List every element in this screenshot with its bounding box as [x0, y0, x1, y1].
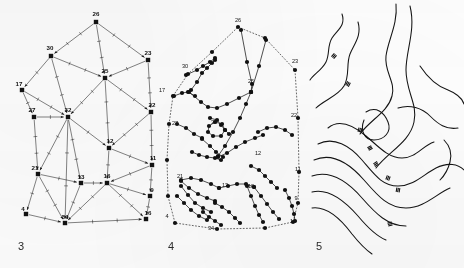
- map-point: [211, 134, 215, 138]
- map-point-label: 4: [165, 213, 168, 219]
- panel-3-edge-layer: [23, 24, 152, 223]
- map-point: [175, 194, 179, 198]
- graph-node: [79, 181, 83, 185]
- panel-5-contour-map: [310, 0, 464, 268]
- map-point: [239, 28, 243, 32]
- contour-line: [312, 191, 386, 240]
- map-point: [275, 186, 279, 190]
- graph-node: [49, 54, 53, 58]
- map-point: [195, 80, 199, 84]
- map-point: [223, 144, 227, 148]
- edge-tick-mark: [50, 105, 52, 108]
- map-point: [165, 158, 169, 162]
- map-point: [219, 223, 223, 227]
- map-point: [205, 196, 209, 200]
- graph-edge: [34, 120, 37, 170]
- graph-edge: [65, 120, 68, 219]
- tick-stroke: [388, 225, 392, 226]
- caption-panel-5: 5: [316, 240, 323, 252]
- graph-node-label: 23: [145, 49, 152, 56]
- graph-node: [63, 221, 67, 225]
- contour-tick-mark: [346, 81, 351, 86]
- contour-line: [376, 6, 415, 168]
- graph-node-label: 16: [104, 172, 111, 179]
- map-point: [201, 64, 205, 68]
- graph-node: [144, 217, 148, 221]
- edge-tick-mark: [53, 204, 56, 206]
- map-point: [227, 132, 231, 136]
- edge-tick-mark: [47, 153, 50, 155]
- edge-tick-mark: [133, 98, 135, 101]
- map-point: [290, 204, 294, 208]
- graph-node: [103, 76, 107, 80]
- caption-panel-3: 3: [18, 240, 25, 252]
- contour-line: [420, 66, 464, 104]
- contour-tick-mark: [386, 175, 390, 180]
- map-point: [263, 174, 267, 178]
- graph-edge: [54, 24, 93, 54]
- map-point: [249, 90, 253, 94]
- graph-edge: [69, 120, 81, 179]
- map-point: [189, 176, 193, 180]
- graph-node-label: 34: [62, 213, 69, 220]
- graph-node: [146, 58, 150, 62]
- map-point: [238, 221, 242, 225]
- graph-node-label: 9: [150, 186, 154, 193]
- contour-line: [362, 110, 389, 140]
- map-point: [225, 151, 229, 155]
- map-point: [166, 194, 170, 198]
- map-point: [237, 96, 241, 100]
- graph-node-label: 25: [102, 67, 109, 74]
- graph-node-label: 27: [29, 106, 36, 113]
- map-point: [249, 194, 253, 198]
- map-point-label: 32: [211, 119, 217, 125]
- map-point: [209, 210, 213, 214]
- tick-stroke: [388, 223, 392, 224]
- graph-node: [36, 172, 40, 176]
- panel-3-edge-ticks: [26, 32, 154, 223]
- map-point-label: 16: [290, 218, 296, 224]
- map-point: [257, 168, 261, 172]
- graph-node: [24, 212, 28, 216]
- map-point: [179, 179, 183, 183]
- map-point: [227, 210, 231, 214]
- caption-panel-4: 4: [168, 240, 175, 252]
- map-point: [243, 140, 247, 144]
- edge-tick-mark: [128, 45, 130, 48]
- map-point-label: 26: [235, 17, 241, 23]
- map-point-label: 18: [248, 183, 254, 189]
- map-polyline: [202, 139, 223, 157]
- map-point: [271, 210, 275, 214]
- graph-edge: [109, 185, 143, 216]
- map-point: [189, 88, 193, 92]
- edge-tick-mark: [66, 42, 68, 45]
- map-point: [274, 125, 278, 129]
- map-point: [290, 133, 294, 137]
- tick-stroke: [399, 188, 400, 192]
- map-point: [231, 130, 235, 134]
- contour-line: [398, 106, 458, 128]
- map-point: [206, 105, 210, 109]
- figure-page: 26233025172227321211211316943416 2623302…: [0, 0, 464, 268]
- map-polyline: [177, 124, 202, 138]
- map-point: [167, 122, 171, 126]
- map-point: [200, 137, 204, 141]
- map-point: [265, 126, 269, 130]
- graph-edge: [40, 120, 67, 171]
- map-point: [182, 201, 186, 205]
- map-point: [214, 150, 218, 154]
- map-point: [205, 155, 209, 159]
- graph-node-label: 26: [93, 10, 100, 17]
- map-point: [244, 102, 248, 106]
- map-point: [210, 61, 214, 65]
- map-point: [201, 210, 205, 214]
- map-point-label: 21: [177, 173, 183, 179]
- graph-node-label: 16: [145, 209, 152, 216]
- map-point: [257, 64, 261, 68]
- map-point: [197, 153, 201, 157]
- graph-edge: [39, 177, 63, 220]
- edge-tick-mark: [79, 32, 81, 35]
- edge-tick-mark: [56, 136, 59, 138]
- graph-node: [107, 146, 111, 150]
- graph-node: [150, 163, 154, 167]
